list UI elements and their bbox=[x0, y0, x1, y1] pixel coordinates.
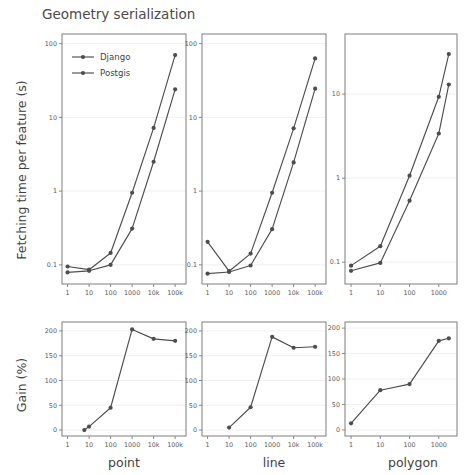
y-tick-label: 0.1 bbox=[47, 261, 57, 269]
data-point-gain bbox=[349, 421, 353, 425]
data-point-postgis bbox=[130, 227, 134, 231]
y-tick-label: 100 bbox=[45, 377, 57, 385]
data-point-gain bbox=[173, 339, 177, 343]
figure-canvas: Geometry serialization Fetching time per… bbox=[0, 0, 473, 475]
data-point-postgis bbox=[313, 87, 317, 91]
data-point-postgis bbox=[205, 272, 209, 276]
y-tick-label: 100 bbox=[45, 40, 57, 48]
x-tick-label: 10 bbox=[225, 289, 233, 297]
x-tick-label: 10k bbox=[288, 289, 300, 297]
data-point-django bbox=[205, 240, 209, 244]
y-tick-label: 50 bbox=[189, 402, 197, 410]
y-tick-label: 50 bbox=[332, 401, 340, 409]
x-tick-label: 10 bbox=[85, 289, 93, 297]
x-tick-label: 100 bbox=[403, 441, 415, 449]
data-point-gain bbox=[270, 335, 274, 339]
y-tick-label: 1 bbox=[336, 174, 340, 182]
data-point-django bbox=[152, 126, 156, 130]
data-point-gain bbox=[249, 405, 253, 409]
x-tick-label: 10k bbox=[148, 289, 160, 297]
x-tick-label: 10 bbox=[225, 441, 233, 449]
x-tick-label: 1000 bbox=[264, 289, 280, 297]
y-tick-label: 1 bbox=[193, 187, 197, 195]
y-tick-label: 150 bbox=[328, 350, 340, 358]
data-point-django bbox=[407, 174, 411, 178]
data-point-postgis bbox=[249, 263, 253, 267]
y-tick-label: 200 bbox=[328, 324, 340, 332]
y-tick-label: 0 bbox=[53, 426, 57, 434]
data-point-gain bbox=[313, 345, 317, 349]
x-tick-label: 1 bbox=[206, 289, 210, 297]
data-point-django bbox=[130, 191, 134, 195]
data-point-gain bbox=[292, 346, 296, 350]
x-tick-label: 100k bbox=[307, 441, 323, 449]
x-tick-label: 1 bbox=[206, 441, 210, 449]
data-point-postgis bbox=[437, 131, 441, 135]
y-tick-label: 0 bbox=[193, 426, 197, 434]
data-point-postgis bbox=[378, 261, 382, 265]
column-label-line: line bbox=[263, 455, 286, 470]
figure-background bbox=[0, 0, 473, 475]
data-point-django bbox=[437, 95, 441, 99]
data-point-django bbox=[378, 244, 382, 248]
y-tick-label: 150 bbox=[185, 352, 197, 360]
data-point-django bbox=[249, 252, 253, 256]
x-tick-label: 1000 bbox=[124, 441, 140, 449]
data-point-postgis bbox=[270, 227, 274, 231]
x-tick-label: 1 bbox=[66, 441, 70, 449]
x-tick-label: 1000 bbox=[431, 289, 447, 297]
y-tick-label: 10 bbox=[189, 114, 197, 122]
y-tick-label: 150 bbox=[45, 352, 57, 360]
data-point-gain bbox=[447, 336, 451, 340]
data-point-postgis bbox=[65, 270, 69, 274]
y-tick-label: 0.1 bbox=[187, 261, 197, 269]
column-label-polygon: polygon bbox=[388, 455, 438, 470]
data-point-postgis bbox=[227, 270, 231, 274]
x-tick-label: 100k bbox=[167, 441, 183, 449]
y-tick-label: 0.1 bbox=[330, 258, 340, 266]
x-tick-label: 100 bbox=[105, 441, 117, 449]
data-point-gain bbox=[82, 428, 86, 432]
y-tick-label: 100 bbox=[185, 377, 197, 385]
y-tick-label: 1 bbox=[53, 187, 57, 195]
data-point-gain bbox=[109, 406, 113, 410]
data-point-django bbox=[349, 264, 353, 268]
data-point-django bbox=[313, 56, 317, 60]
x-tick-label: 100 bbox=[105, 289, 117, 297]
data-point-gain bbox=[130, 327, 134, 331]
x-tick-label: 100k bbox=[167, 289, 183, 297]
data-point-django bbox=[292, 126, 296, 130]
x-tick-label: 10 bbox=[376, 441, 384, 449]
data-point-postgis bbox=[109, 263, 113, 267]
data-point-postgis bbox=[349, 269, 353, 273]
data-point-postgis bbox=[407, 199, 411, 203]
x-tick-label: 100k bbox=[307, 289, 323, 297]
data-point-django bbox=[447, 52, 451, 56]
y-tick-label: 200 bbox=[185, 327, 197, 335]
x-tick-label: 10 bbox=[376, 289, 384, 297]
y-axis-label-top: Fetching time per feature (s) bbox=[14, 80, 29, 260]
x-tick-label: 1000 bbox=[431, 441, 447, 449]
y-tick-label: 0 bbox=[336, 426, 340, 434]
legend-label-postgis: Postgis bbox=[100, 68, 131, 78]
data-point-postgis bbox=[292, 160, 296, 164]
x-tick-label: 1 bbox=[349, 289, 353, 297]
x-tick-label: 10 bbox=[85, 441, 93, 449]
data-point-gain bbox=[152, 337, 156, 341]
data-point-django bbox=[65, 264, 69, 268]
x-tick-label: 1000 bbox=[264, 441, 280, 449]
data-point-postgis bbox=[447, 82, 451, 86]
data-point-gain bbox=[378, 388, 382, 392]
column-label-point: point bbox=[108, 455, 140, 470]
data-point-gain bbox=[437, 339, 441, 343]
x-tick-label: 100 bbox=[403, 289, 415, 297]
y-axis-label-bottom: Gain (%) bbox=[14, 358, 29, 412]
figure-title: Geometry serialization bbox=[42, 6, 195, 22]
x-tick-label: 100 bbox=[245, 441, 257, 449]
y-tick-label: 200 bbox=[45, 327, 57, 335]
data-point-django bbox=[270, 191, 274, 195]
chart-svg: Geometry serialization Fetching time per… bbox=[0, 0, 473, 475]
y-tick-label: 100 bbox=[328, 375, 340, 383]
x-tick-label: 100 bbox=[245, 289, 257, 297]
legend-marker-django bbox=[81, 55, 85, 59]
